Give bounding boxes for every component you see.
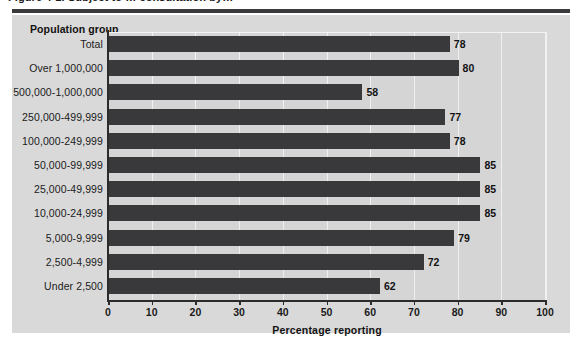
bar-value-label: 85: [484, 201, 496, 225]
x-axis-tick-label: 60: [364, 306, 376, 318]
bar-value-label: 58: [366, 80, 378, 104]
bar: [109, 36, 450, 52]
x-axis-tick-label: 50: [321, 306, 333, 318]
x-axis-tick: [239, 300, 241, 305]
bar-value-label: 62: [384, 274, 396, 298]
x-axis-tick: [327, 300, 329, 305]
bar-value-label: 78: [454, 32, 466, 56]
category-label: 500,000-1,000,000: [13, 80, 103, 104]
x-axis-tick: [414, 300, 416, 305]
bar: [109, 109, 445, 125]
x-axis-tick-label: 0: [105, 306, 111, 318]
x-axis-tick: [501, 300, 503, 305]
bar-value-label: 85: [484, 153, 496, 177]
bar: [109, 278, 380, 294]
category-label: Under 2,500: [44, 274, 103, 298]
bar-row: 50,000-99,99985: [0, 153, 582, 177]
bar-row: 5,000-9,99979: [0, 226, 582, 250]
category-label: Total: [80, 32, 103, 56]
category-label: 5,000-9,999: [46, 226, 103, 250]
category-label: 100,000-249,999: [22, 129, 103, 153]
figure-caption-clipped: Figure 4-1. Subject to … consultation by…: [0, 0, 582, 7]
x-axis-tick: [152, 300, 154, 305]
bar-value-label: 77: [449, 105, 461, 129]
bar-row: Over 1,000,00080: [0, 56, 582, 80]
x-axis-tick-label: 10: [146, 306, 158, 318]
x-axis-title: Percentage reporting: [272, 324, 382, 336]
x-axis-tick-label: 30: [233, 306, 245, 318]
bar: [109, 133, 450, 149]
x-axis-tick-label: 80: [452, 306, 464, 318]
x-axis-tick-label: 90: [495, 306, 507, 318]
x-axis-tick: [283, 300, 285, 305]
category-label: 2,500-4,999: [46, 250, 103, 274]
category-label: 10,000-24,999: [34, 201, 103, 225]
bar: [109, 157, 480, 173]
figure-top-rule: [12, 9, 570, 13]
bar-row: Total78: [0, 32, 582, 56]
bar-row: 2,500-4,99972: [0, 250, 582, 274]
bar-value-label: 80: [463, 56, 475, 80]
category-label: 50,000-99,999: [34, 153, 103, 177]
category-label: 250,000-499,999: [22, 105, 103, 129]
x-axis-tick-label: 40: [277, 306, 289, 318]
bar-row: 250,000-499,99977: [0, 105, 582, 129]
bar: [109, 60, 459, 76]
x-axis-tick-label: 100: [536, 306, 554, 318]
bar-row: 25,000-49,99985: [0, 177, 582, 201]
figure-container: Figure 4-1. Subject to … consultation by…: [0, 0, 582, 343]
bar-value-label: 79: [458, 226, 470, 250]
x-axis-tick: [370, 300, 372, 305]
bar: [109, 205, 480, 221]
bar-row: 100,000-249,99978: [0, 129, 582, 153]
bar-row: 10,000-24,99985: [0, 201, 582, 225]
bar: [109, 230, 454, 246]
category-label: 25,000-49,999: [34, 177, 103, 201]
x-axis-tick: [458, 300, 460, 305]
x-axis-tick-label: 20: [190, 306, 202, 318]
x-axis-tick: [545, 300, 547, 305]
bar: [109, 254, 424, 270]
bar-row: Under 2,50062: [0, 274, 582, 298]
bar-value-label: 85: [484, 177, 496, 201]
x-axis-tick: [195, 300, 197, 305]
bar: [109, 181, 480, 197]
figure-caption-text: Figure 4-1. Subject to … consultation by…: [8, 0, 233, 3]
category-label: Over 1,000,000: [29, 56, 103, 80]
bar: [109, 84, 362, 100]
bar-value-label: 78: [454, 129, 466, 153]
x-axis-tick-label: 70: [408, 306, 420, 318]
bar-row: 500,000-1,000,00058: [0, 80, 582, 104]
bar-value-label: 72: [428, 250, 440, 274]
x-axis-tick: [108, 300, 110, 305]
